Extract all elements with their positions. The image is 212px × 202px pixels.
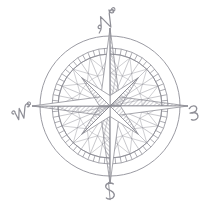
scale-tick xyxy=(73,146,77,151)
scale-tick xyxy=(93,51,95,57)
web-chord xyxy=(87,58,90,83)
compass-rose-graphic: N E S W xyxy=(0,0,212,202)
scale-tick xyxy=(73,61,77,66)
scale-tick xyxy=(158,126,164,128)
scale-tick xyxy=(55,121,61,123)
scale-tick xyxy=(153,74,158,77)
scale-tick xyxy=(147,65,151,69)
scale-tick xyxy=(161,116,167,117)
scale-tick xyxy=(78,149,81,154)
scale-tick xyxy=(115,158,116,164)
label-east: E xyxy=(186,94,201,121)
web-chord xyxy=(130,129,133,154)
scale-tick xyxy=(69,143,73,147)
scale-tick xyxy=(139,149,142,154)
scale-tick xyxy=(135,55,138,60)
scale-tick xyxy=(156,79,161,82)
scale-tick xyxy=(62,135,67,138)
scale-tick xyxy=(52,100,58,101)
scale-tick xyxy=(53,116,59,117)
web-chord xyxy=(62,83,87,86)
scale-tick xyxy=(56,84,62,86)
scale-tick xyxy=(120,49,121,55)
scale-tick xyxy=(83,55,86,60)
scale-tick xyxy=(150,139,155,143)
scale-tick xyxy=(65,139,70,143)
scale-tick xyxy=(120,157,121,163)
scale-tick xyxy=(156,131,161,134)
scale-tick xyxy=(88,154,90,160)
scale-tick xyxy=(160,121,166,123)
scale-tick xyxy=(147,143,151,147)
scale-tick xyxy=(62,74,67,77)
scale-tick xyxy=(130,154,132,160)
label-west: W xyxy=(10,94,35,121)
scale-tick xyxy=(83,152,86,157)
scale-tick xyxy=(115,48,116,54)
scale-tick xyxy=(88,52,90,58)
label-south: S xyxy=(103,174,116,200)
web-chord xyxy=(130,58,133,83)
scale-tick xyxy=(153,135,158,138)
scale-tick xyxy=(162,100,168,101)
scale-tick xyxy=(143,146,147,151)
scale-tick xyxy=(78,58,81,63)
scale-tick xyxy=(130,52,132,58)
scale-tick xyxy=(93,156,95,162)
web-chord xyxy=(133,83,158,86)
web-chord xyxy=(62,126,87,129)
scale-tick xyxy=(65,69,70,73)
compass-rose-figure: N E S W xyxy=(0,0,212,202)
scale-tick xyxy=(158,84,164,86)
scale-tick xyxy=(55,89,61,91)
scale-tick xyxy=(99,157,100,163)
scale-tick xyxy=(160,89,166,91)
center-pivot xyxy=(109,105,111,107)
scale-tick xyxy=(104,48,105,54)
scale-tick xyxy=(104,158,105,164)
scale-tick xyxy=(125,156,127,162)
web-chord xyxy=(87,129,90,154)
scale-tick xyxy=(59,79,64,82)
scale-tick xyxy=(125,51,127,57)
scale-tick xyxy=(161,95,167,96)
scale-tick xyxy=(56,126,62,128)
scale-tick xyxy=(69,65,73,69)
scale-tick xyxy=(53,95,59,96)
scale-tick xyxy=(150,69,155,73)
scale-tick xyxy=(139,58,142,63)
web-chord xyxy=(133,126,158,129)
scale-tick xyxy=(162,111,168,112)
scale-tick xyxy=(52,111,58,112)
scale-tick xyxy=(99,49,100,55)
scale-tick xyxy=(135,152,138,157)
label-north: N xyxy=(94,4,121,33)
scale-tick xyxy=(143,61,147,66)
scale-tick xyxy=(59,131,64,134)
